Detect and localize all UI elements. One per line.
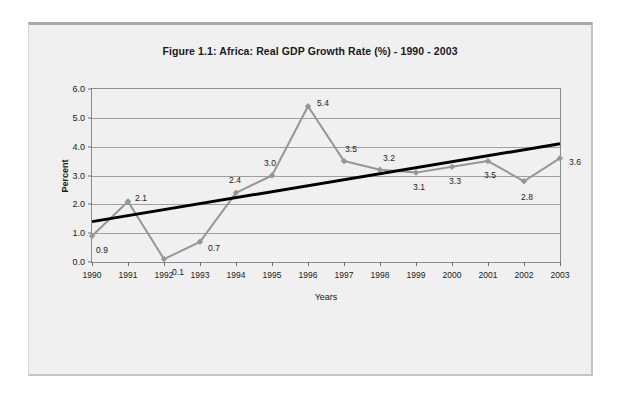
x-tick-label: 1997 [335,270,354,280]
document-page: Figure 1.1: Africa: Real GDP Growth Rate… [28,22,593,376]
x-tick-mark [524,262,525,266]
data-label: 2.4 [229,175,241,185]
x-tick-label: 2002 [515,270,534,280]
x-tick-label: 1994 [227,270,246,280]
data-label: 3.1 [413,182,425,192]
x-tick-mark [560,262,561,266]
data-label: 3.2 [383,153,395,163]
data-label: 0.9 [96,245,108,255]
x-tick-label: 1999 [407,270,426,280]
x-tick-mark [272,262,273,266]
x-tick-label: 1995 [263,270,282,280]
y-tick-label: 4.0 [72,142,85,152]
data-label: 5.4 [317,98,329,108]
x-tick-mark [380,262,381,266]
y-tick-label: 3.0 [72,171,85,181]
y-tick-label: 5.0 [72,113,85,123]
y-tick-label: 0.0 [72,257,85,267]
x-tick-mark [164,262,165,266]
data-label: 3.5 [345,144,357,154]
x-tick-mark [416,262,417,266]
x-tick-mark [344,262,345,266]
y-axis-title: Percent [60,159,70,192]
x-tick-mark [452,262,453,266]
x-tick-label: 1990 [83,270,102,280]
x-tick-mark [236,262,237,266]
data-point-marker [413,169,419,175]
x-tick-label: 2000 [443,270,462,280]
x-tick-label: 1996 [299,270,318,280]
y-tick-label: 6.0 [72,84,85,94]
data-label: 0.1 [172,267,184,277]
x-tick-label: 1991 [119,270,138,280]
x-tick-mark [200,262,201,266]
data-label: 3.6 [569,157,581,167]
y-tick-label: 1.0 [72,228,85,238]
x-tick-label: 1993 [191,270,210,280]
y-tick-label: 2.0 [72,199,85,209]
data-label: 2.8 [521,192,533,202]
data-label: 0.7 [208,243,220,253]
data-label: 2.1 [135,193,147,203]
x-tick-label: 1992 [155,270,174,280]
chart-title: Figure 1.1: Africa: Real GDP Growth Rate… [29,45,591,57]
x-tick-mark [128,262,129,266]
data-point-marker [449,164,455,170]
x-tick-label: 1998 [371,270,390,280]
x-tick-label: 2003 [551,270,570,280]
trendline [92,144,560,222]
plot-area: Percent Years 0.01.02.03.04.05.06.0 1990… [91,88,561,263]
data-label: 3.3 [449,176,461,186]
x-axis-title: Years [92,292,560,302]
x-tick-mark [308,262,309,266]
x-tick-mark [92,262,93,266]
data-label: 3.0 [264,158,276,168]
x-tick-label: 2001 [479,270,498,280]
x-tick-mark [488,262,489,266]
data-label: 3.5 [484,170,496,180]
